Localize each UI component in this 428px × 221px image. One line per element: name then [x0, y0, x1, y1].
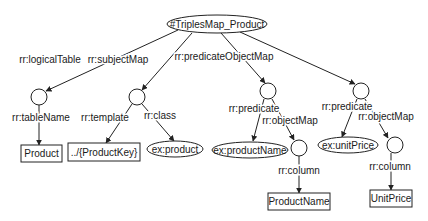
node-label-ex-unitprice: ex:unitPrice [322, 140, 375, 151]
node-label-unitprice: UnitPrice [371, 193, 412, 204]
edge-label-rr-predicate: rr:predicate [229, 103, 280, 114]
node-exproduct: ex:product [147, 141, 203, 157]
blank-node-circle [291, 140, 307, 156]
node-label-ex-productname: ex:productName [213, 145, 287, 156]
nodes-layer: #TriplesMap_ProductProduct../{ProductKey… [21, 15, 412, 210]
blank-node-circle [31, 89, 47, 105]
edge-sm-tmpl [106, 104, 132, 143]
node-colUnitPrice: UnitPrice [370, 190, 412, 207]
blank-node-circle [387, 137, 403, 153]
edge-label-rr-subjectmap: rr:subjectMap [88, 54, 149, 65]
node-exunitPrice: ex:unitPrice [318, 137, 378, 153]
edge-label-rr-objectmap: rr:objectMap [262, 115, 318, 126]
edge-label-rr-predicateobjectmap: rr:predicateObjectMap [175, 51, 274, 62]
edge-label-rr-objectmap: rr:objectMap [358, 111, 414, 122]
node-lt [31, 89, 47, 105]
edge-label-rr-column: rr:column [278, 165, 320, 176]
node-label-productkey: ../{ProductKey} [71, 147, 138, 158]
edge-label-rr-logicaltable: rr:logicalTable [19, 54, 81, 65]
node-label-triplesmap-product: #TriplesMap_Product [170, 19, 265, 30]
node-tmpl: ../{ProductKey} [68, 143, 140, 161]
node-om1 [291, 140, 307, 156]
node-label-product: Product [24, 148, 59, 159]
node-colProductName: ProductName [268, 193, 330, 210]
node-om2 [387, 137, 403, 153]
triples-map-diagram: #TriplesMap_ProductProduct../{ProductKey… [0, 0, 428, 221]
edge-label-rr-tablename: rr:tableName [12, 112, 70, 123]
edge-label-rr-template: rr:template [81, 112, 129, 123]
node-label-ex-product: ex:product [152, 144, 199, 155]
node-sm [129, 89, 145, 105]
edge-label-rr-class: rr:class [144, 110, 176, 121]
node-tblProduct: Product [21, 145, 62, 162]
blank-node-circle [353, 83, 369, 99]
node-root: #TriplesMap_Product [167, 15, 267, 33]
blank-node-circle [260, 83, 276, 99]
blank-node-circle [129, 89, 145, 105]
node-label-productname: ProductName [268, 196, 330, 207]
node-exproductName: ex:productName [212, 142, 288, 158]
node-pom1 [260, 83, 276, 99]
edge-label-rr-column: rr:column [369, 161, 411, 172]
node-pom2 [353, 83, 369, 99]
